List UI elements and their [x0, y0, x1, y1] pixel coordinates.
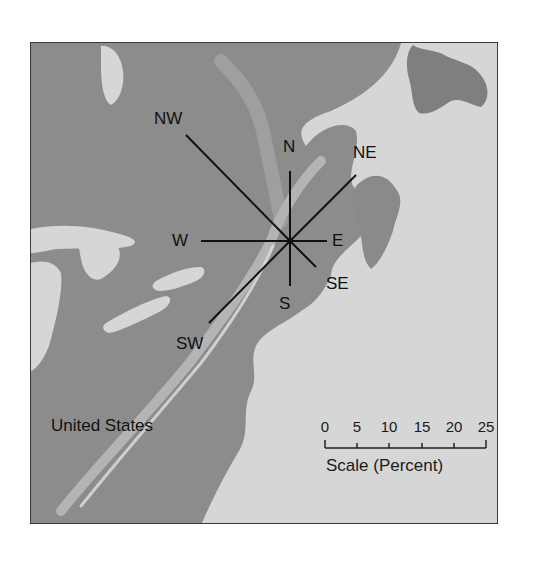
- scale-bar: 0 5 10 15 20 25 Scale (Percent): [292, 418, 472, 478]
- label-nw: NW: [154, 110, 182, 127]
- label-ne: NE: [353, 144, 377, 161]
- region-label: United States: [51, 417, 153, 434]
- scale-title: Scale (Percent): [326, 456, 443, 476]
- label-n: N: [283, 138, 295, 155]
- rose-line-sw: [209, 241, 290, 323]
- label-e: E: [332, 232, 343, 249]
- label-sw: SW: [176, 335, 203, 352]
- scale-axis: [292, 418, 512, 458]
- label-w: W: [172, 232, 188, 249]
- rose-line-se: [290, 241, 316, 267]
- rose-center: [287, 238, 293, 244]
- rose-line-nw: [186, 135, 290, 241]
- label-s: S: [279, 295, 290, 312]
- rose-line-ne: [290, 175, 356, 241]
- label-se: SE: [326, 275, 349, 292]
